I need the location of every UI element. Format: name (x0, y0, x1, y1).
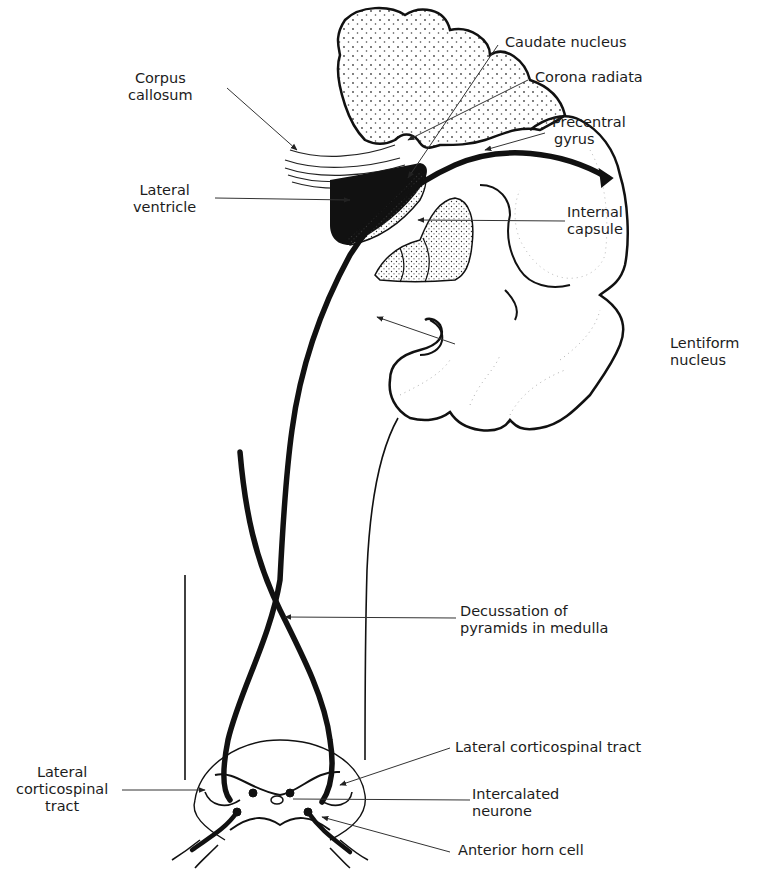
label-line: Lateral (16, 764, 108, 781)
label-line: neurone (472, 803, 559, 820)
label-line: ventricle (133, 199, 196, 216)
label-line: corticospinal (16, 781, 108, 798)
label-caudate-nucleus: Caudate nucleus (505, 34, 627, 51)
label-line: Corpus (128, 70, 193, 87)
label-lateral-corticospinal-left: Lateral corticospinal tract (16, 764, 108, 815)
label-line: gyrus (552, 131, 626, 148)
label-lateral-corticospinal-right: Lateral corticospinal tract (455, 739, 641, 756)
label-line: Lentiform (670, 335, 739, 352)
label-internal-capsule: Internal capsule (567, 204, 623, 238)
label-line: Precentral (552, 114, 626, 131)
cerebral-cortex-upper (338, 8, 565, 148)
label-line: Lateral (133, 182, 196, 199)
label-line: pyramids in medulla (460, 620, 608, 637)
frontal-gyri (338, 8, 565, 148)
label-lateral-ventricle: Lateral ventricle (133, 182, 196, 216)
label-anterior-horn-cell: Anterior horn cell (458, 842, 584, 859)
leader-lines (122, 45, 565, 852)
insula-outline (480, 185, 570, 287)
label-lentiform-nucleus: Lentiform nucleus (670, 335, 739, 369)
label-decussation: Decussation of pyramids in medulla (460, 603, 608, 637)
corticospinal-diagram (0, 0, 770, 877)
label-line: Internal (567, 204, 623, 221)
label-line: capsule (567, 221, 623, 238)
label-line: Intercalated (472, 786, 559, 803)
brainstem-outline (185, 418, 398, 780)
label-line: callosum (128, 87, 193, 104)
label-line: tract (16, 798, 108, 815)
label-corpus-callosum: Corpus callosum (128, 70, 193, 104)
label-line: Decussation of (460, 603, 608, 620)
label-intercalated-neurone: Intercalated neurone (472, 786, 559, 820)
label-precentral-gyrus: Precentral gyrus (552, 114, 626, 148)
label-line: nucleus (670, 352, 739, 369)
label-corona-radiata: Corona radiata (535, 69, 643, 86)
spinal-cord-section (172, 740, 368, 868)
